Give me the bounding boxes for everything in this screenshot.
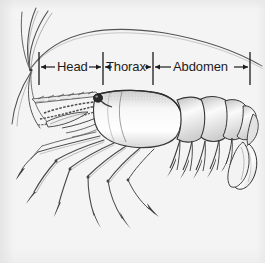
pleopod bbox=[180, 141, 192, 179]
pleopod bbox=[193, 141, 205, 179]
label-thorax: Thorax bbox=[106, 60, 146, 73]
carapace bbox=[93, 90, 181, 147]
shrimp-anatomy-figure: Head Thorax Abdomen bbox=[0, 0, 265, 263]
pereiopod-2 bbox=[54, 143, 114, 217]
abdomen-segments bbox=[177, 97, 258, 145]
antennal-scale bbox=[46, 112, 88, 127]
maxilliped-long bbox=[16, 136, 100, 180]
pereiopod-5 bbox=[127, 149, 159, 217]
pleopod bbox=[167, 140, 180, 177]
antennule-1 bbox=[44, 102, 94, 113]
pereiopod-4 bbox=[107, 148, 141, 229]
pleopod bbox=[207, 140, 219, 178]
label-abdomen: Abdomen bbox=[173, 60, 228, 73]
label-head: Head bbox=[57, 60, 88, 73]
shrimp-illustration bbox=[0, 0, 265, 263]
pleopods-group bbox=[167, 138, 232, 179]
